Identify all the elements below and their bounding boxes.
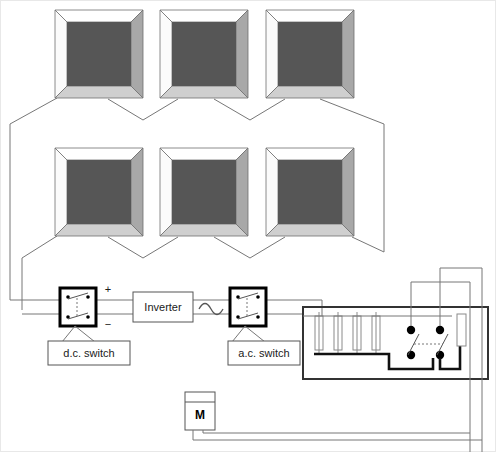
pv-wiring-diagram: d.c. switch a.c. switch Inverter + − M bbox=[0, 0, 496, 452]
pv-module-group bbox=[55, 10, 354, 236]
wire-module4-module5 bbox=[108, 237, 178, 258]
dc-callout-leader-right bbox=[75, 326, 95, 342]
sine-wave-icon bbox=[199, 304, 223, 315]
ac-callout-leader-left bbox=[232, 326, 245, 342]
neutral-busbar bbox=[314, 354, 433, 369]
electricity-meter[interactable]: M bbox=[185, 392, 215, 430]
negative-polarity-label: − bbox=[105, 318, 111, 330]
wire-array-left-positive bbox=[10, 98, 57, 300]
switch-pole-1-top-contact bbox=[407, 326, 415, 334]
main-terminal-block bbox=[457, 314, 466, 346]
dc-bus-wires bbox=[96, 300, 133, 314]
pv-module-5 bbox=[160, 148, 248, 236]
ac-callout-leader-right bbox=[245, 326, 265, 342]
wire-module1-module2 bbox=[108, 99, 178, 120]
wire-module2-module3 bbox=[214, 99, 285, 120]
pv-module-4 bbox=[55, 148, 143, 236]
dc-switch-label: d.c. switch bbox=[63, 347, 114, 359]
diagram-canvas: d.c. switch a.c. switch Inverter + − M bbox=[0, 0, 496, 452]
fuse-4[interactable] bbox=[372, 312, 380, 354]
pv-module-1 bbox=[55, 10, 143, 98]
fuse-bank bbox=[315, 312, 380, 354]
switch-pole-2-top-contact bbox=[436, 326, 444, 334]
ac-switch[interactable] bbox=[230, 288, 266, 326]
dc-callout-leader-left bbox=[62, 326, 75, 342]
meter-return-wires bbox=[193, 430, 482, 440]
positive-polarity-label: + bbox=[105, 283, 111, 295]
meter-label: M bbox=[195, 408, 205, 422]
wire-array-left-negative bbox=[22, 236, 57, 310]
wire-module5-module6 bbox=[214, 237, 285, 258]
dc-switch-callout: d.c. switch bbox=[48, 326, 130, 365]
ac-switch-label: a.c. switch bbox=[238, 347, 289, 359]
pv-module-2 bbox=[160, 10, 248, 98]
pv-module-6 bbox=[266, 148, 354, 236]
main-double-pole-switch[interactable] bbox=[407, 326, 448, 359]
fuse-1[interactable] bbox=[315, 312, 323, 354]
wire-meter-to-supply-live bbox=[203, 430, 470, 433]
consumer-unit bbox=[303, 307, 488, 379]
dc-switch[interactable] bbox=[60, 288, 96, 326]
wire-meter-to-supply-neutral bbox=[193, 430, 482, 440]
pv-module-3 bbox=[266, 10, 354, 98]
ac-switch-callout: a.c. switch bbox=[228, 326, 300, 365]
fuse-2[interactable] bbox=[334, 312, 342, 354]
supply-feed-wires bbox=[411, 268, 482, 452]
fuse-3[interactable] bbox=[353, 312, 361, 354]
inverter-label: Inverter bbox=[144, 301, 182, 313]
